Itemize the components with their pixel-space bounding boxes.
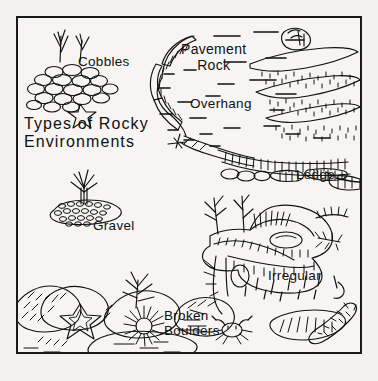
- snail-shell: [282, 28, 311, 50]
- label-cobbles: Cobbles: [78, 54, 130, 69]
- label-overhang: Overhang: [190, 96, 252, 111]
- ledge-band: [218, 150, 360, 190]
- label-gravel: Gravel: [93, 218, 135, 233]
- overhang-rock: [168, 134, 254, 166]
- flat-rock-bottom-right: [270, 310, 346, 340]
- page-title-line2: Environments: [24, 133, 149, 151]
- figure-canvas: Types of Rocky Environments Cobbles Grav…: [0, 0, 378, 381]
- page-title-line1: Types of Rocky: [24, 115, 149, 133]
- outcrop-right-anemone: [315, 232, 342, 250]
- cobble-stones: [27, 65, 119, 113]
- leader-lines: [178, 172, 334, 330]
- label-irregular: Irregular: [268, 268, 321, 283]
- label-ledge: Ledge: [296, 167, 335, 182]
- seaweed-frond-left: [54, 30, 68, 62]
- outcrop-bushy-seaweed: [316, 207, 348, 218]
- label-pavement-rock-line2: Rock: [181, 58, 246, 74]
- label-pavement-rock: Pavement Rock: [181, 42, 246, 73]
- diagram-frame: Types of Rocky Environments Cobbles Grav…: [16, 16, 362, 354]
- page-title: Types of Rocky Environments: [24, 115, 149, 151]
- irregular-outcrop: [203, 195, 348, 314]
- sea-urchin: [124, 306, 164, 346]
- stipple-texture: [262, 71, 356, 141]
- bottom-left-texture: [24, 337, 67, 352]
- label-broken-boulders-line1: Broken: [164, 308, 220, 323]
- outcrop-seaweed-mid: [234, 195, 253, 232]
- label-broken-boulders: Broken Boulders: [164, 308, 220, 338]
- boulder-seaweed-center: [123, 272, 154, 308]
- label-pavement-rock-line1: Pavement: [181, 42, 246, 58]
- outcrop-seaweed-left: [205, 196, 226, 234]
- label-broken-boulders-line2: Boulders: [164, 323, 220, 338]
- cobbles-pile: [27, 30, 119, 128]
- kelp-blades: [250, 48, 360, 141]
- gravel-plant: [71, 170, 97, 204]
- stem-seaweed: [204, 260, 218, 296]
